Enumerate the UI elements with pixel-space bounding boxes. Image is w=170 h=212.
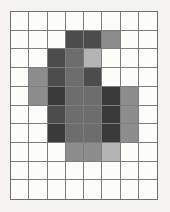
grid-cell-empty (121, 68, 139, 87)
grid-cell-empty (29, 12, 47, 31)
grid-cell-empty (84, 162, 102, 181)
grid-cell-empty (102, 49, 120, 68)
grid-cell-empty (139, 143, 157, 162)
grid-cell-empty (29, 143, 47, 162)
pixel-grid-canvas (10, 11, 158, 200)
grid-cell-empty (11, 12, 29, 31)
grid-cell-empty (48, 180, 66, 199)
grid-cell-empty (139, 68, 157, 87)
grid-cell-empty (66, 162, 84, 181)
grid-cell-filled (66, 143, 84, 162)
grid-cell-empty (102, 12, 120, 31)
grid-cell-filled (102, 106, 120, 125)
grid-cell-filled (29, 68, 47, 87)
grid-cell-empty (102, 162, 120, 181)
grid-cell-empty (139, 49, 157, 68)
grid-cell-filled (48, 68, 66, 87)
grid-cell-filled (66, 124, 84, 143)
grid-cell-filled (121, 106, 139, 125)
grid-cell-empty (11, 31, 29, 50)
grid-cell-empty (48, 162, 66, 181)
grid-cell-empty (139, 180, 157, 199)
grid-cell-empty (29, 106, 47, 125)
grid-cell-filled (66, 31, 84, 50)
grid-cell-filled (66, 87, 84, 106)
grid-cell-empty (11, 162, 29, 181)
grid-cell-filled (121, 124, 139, 143)
grid-cell-empty (102, 68, 120, 87)
grid-cell-empty (121, 49, 139, 68)
grid-cell-filled (48, 49, 66, 68)
grid-cell-filled (84, 106, 102, 125)
grid-cell-empty (139, 162, 157, 181)
grid-cell-filled (121, 87, 139, 106)
grid-cell-empty (29, 49, 47, 68)
grid-cell-filled (102, 143, 120, 162)
grid-cell-empty (29, 31, 47, 50)
grid-cell-filled (84, 143, 102, 162)
grid-cell-empty (66, 180, 84, 199)
grid-cell-empty (11, 49, 29, 68)
grid-cell-empty (48, 12, 66, 31)
grid-cell-empty (121, 143, 139, 162)
grid-cell-empty (121, 31, 139, 50)
grid-cell-empty (139, 87, 157, 106)
grid-cell-filled (84, 124, 102, 143)
grid-cell-empty (102, 180, 120, 199)
grid-cell-filled (48, 87, 66, 106)
grid-cell-filled (84, 87, 102, 106)
grid-cell-empty (139, 31, 157, 50)
grid-cell-empty (66, 12, 84, 31)
grid-cell-empty (121, 162, 139, 181)
grid-cell-empty (139, 124, 157, 143)
grid-cell-empty (84, 12, 102, 31)
grid-cell-empty (29, 162, 47, 181)
grid-cell-empty (29, 180, 47, 199)
grid-cell-empty (48, 143, 66, 162)
grid-cell-filled (48, 106, 66, 125)
grid-cell-filled (66, 68, 84, 87)
grid-cell-empty (11, 68, 29, 87)
grid-cell-filled (102, 87, 120, 106)
grid-cell-filled (84, 68, 102, 87)
grid-cell-empty (11, 106, 29, 125)
grid-cell-empty (11, 180, 29, 199)
grid-cell-filled (102, 31, 120, 50)
grid-cell-empty (121, 12, 139, 31)
grid-cell-empty (139, 106, 157, 125)
grid-cell-empty (11, 143, 29, 162)
grid-cell-filled (84, 31, 102, 50)
grid-cell-empty (84, 180, 102, 199)
grid-cell-filled (29, 87, 47, 106)
grid-cell-filled (48, 124, 66, 143)
grid-cell-empty (11, 87, 29, 106)
grid-cell-empty (29, 124, 47, 143)
grid-cell-empty (48, 31, 66, 50)
grid-cell-filled (102, 124, 120, 143)
grid-cell-empty (11, 124, 29, 143)
grid-cell-empty (121, 180, 139, 199)
grid-cell-filled (84, 49, 102, 68)
grid-cell-filled (66, 49, 84, 68)
grid-cell-empty (139, 12, 157, 31)
grid-cell-filled (66, 106, 84, 125)
